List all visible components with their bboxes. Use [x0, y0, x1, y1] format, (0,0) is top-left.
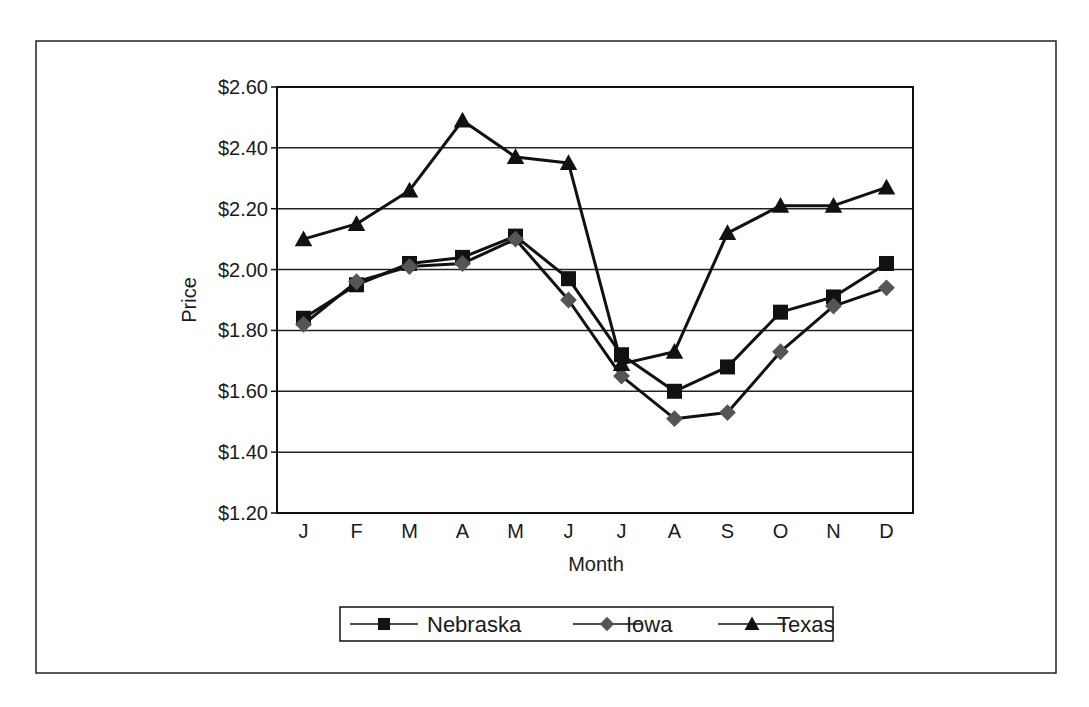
data-point — [720, 359, 735, 374]
y-tick-label: $2.60 — [218, 76, 268, 98]
x-tick-label: J — [299, 520, 309, 542]
data-point — [561, 271, 576, 286]
legend-label: Nebraska — [427, 612, 522, 637]
x-tick-label: J — [564, 520, 574, 542]
y-tick-label: $2.40 — [218, 137, 268, 159]
data-point — [879, 256, 894, 271]
x-tick-label: N — [826, 520, 840, 542]
y-tick-label: $1.60 — [218, 380, 268, 402]
x-tick-label: M — [401, 520, 418, 542]
y-tick-label: $1.20 — [218, 502, 268, 524]
y-tick-label: $1.40 — [218, 441, 268, 463]
x-axis-title: Month — [568, 553, 624, 575]
y-tick-label: $1.80 — [218, 319, 268, 341]
y-tick-label: $2.00 — [218, 259, 268, 281]
legend-marker-square-icon — [378, 618, 390, 630]
data-point — [773, 305, 788, 320]
data-point — [667, 384, 682, 399]
x-tick-label: F — [350, 520, 362, 542]
x-tick-label: A — [668, 520, 682, 542]
legend-label: Texas — [777, 612, 834, 637]
x-tick-label: S — [721, 520, 734, 542]
x-tick-label: A — [456, 520, 470, 542]
outer-frame — [36, 41, 1056, 673]
x-tick-label: M — [507, 520, 524, 542]
legend: NebraskaIowaTexas — [340, 607, 834, 641]
x-tick-label: D — [879, 520, 893, 542]
y-tick-label: $2.20 — [218, 198, 268, 220]
x-tick-label: J — [617, 520, 627, 542]
y-axis-title: Price — [178, 277, 200, 323]
x-tick-label: O — [773, 520, 789, 542]
chart: $1.20$1.40$1.60$1.80$2.00$2.20$2.40$2.60… — [0, 0, 1089, 707]
legend-label: Iowa — [626, 612, 673, 637]
